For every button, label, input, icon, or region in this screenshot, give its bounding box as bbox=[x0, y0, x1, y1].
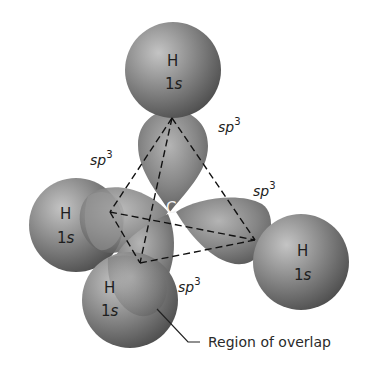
methane-orbital-diagram: C H 1s H 1s H 1s H 1s sp3 sp3 sp3 sp3 Re… bbox=[0, 0, 375, 371]
hydrogen-top bbox=[125, 22, 221, 118]
hydrogen-right bbox=[253, 214, 349, 310]
sp3-label-top: sp3 bbox=[218, 116, 241, 135]
sp3-label-bottom: sp3 bbox=[178, 276, 201, 295]
sp3-label-left: sp3 bbox=[90, 149, 113, 168]
h-element-left: H bbox=[60, 205, 71, 223]
h-orbital-right: 1s bbox=[294, 266, 312, 284]
overlap-caption: Region of overlap bbox=[208, 334, 331, 350]
h-orbital-bottom: 1s bbox=[101, 302, 119, 320]
hydrogen-bottom bbox=[82, 252, 178, 348]
h-element-bottom: H bbox=[104, 279, 115, 297]
h-orbital-top: 1s bbox=[165, 75, 183, 93]
sp3-label-right: sp3 bbox=[253, 180, 276, 199]
h-orbital-left: 1s bbox=[57, 229, 75, 247]
carbon-label: C bbox=[166, 199, 176, 217]
h-element-top: H bbox=[167, 52, 178, 70]
h-sphere-right bbox=[253, 214, 349, 310]
h-sphere-top bbox=[125, 22, 221, 118]
h-element-right: H bbox=[297, 242, 308, 260]
